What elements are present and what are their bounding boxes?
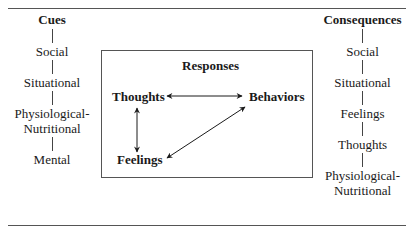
cue-item: Situational: [24, 75, 80, 90]
cue-item: Mental: [34, 152, 71, 167]
node-thoughts: Thoughts: [112, 89, 165, 104]
connector-line: [362, 153, 363, 167]
consequence-item: Feelings: [340, 106, 384, 121]
bottom-rule: [8, 225, 406, 226]
connector-line: [362, 60, 363, 74]
responses-title: Responses: [182, 58, 239, 73]
top-rule: [8, 8, 406, 9]
consequences-title: Consequences: [323, 12, 401, 28]
consequences-column: Consequences Social Situational Feelings…: [312, 12, 413, 198]
node-behaviors: Behaviors: [249, 89, 305, 104]
consequence-item: Thoughts: [338, 137, 387, 152]
cue-item: Physiological- Nutritional: [14, 106, 89, 136]
connector-line: [362, 122, 363, 136]
consequence-item: Physiological- Nutritional: [325, 168, 400, 198]
connector-line: [52, 91, 53, 105]
cues-column: Cues Social Situational Physiological- N…: [0, 12, 104, 167]
node-feelings: Feelings: [117, 152, 163, 167]
connector-line: [52, 137, 53, 151]
connector-line: [362, 91, 363, 105]
consequence-item: Situational: [334, 75, 390, 90]
connector-line: [52, 60, 53, 74]
connector-line: [362, 29, 363, 43]
connector-line: [52, 29, 53, 43]
consequence-item: Social: [346, 44, 379, 59]
cue-item: Social: [36, 44, 69, 59]
cues-title: Cues: [38, 12, 65, 28]
